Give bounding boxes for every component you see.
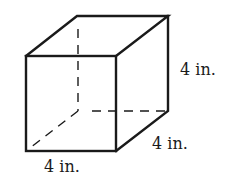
width-label: 4 in.: [44, 159, 80, 175]
height-label: 4 in.: [180, 62, 216, 78]
top-face: [26, 16, 168, 56]
hidden-edge-diagonal: [26, 111, 78, 151]
depth-label: 4 in.: [152, 136, 188, 152]
cube-drawing: [0, 0, 235, 183]
front-face: [26, 56, 116, 151]
